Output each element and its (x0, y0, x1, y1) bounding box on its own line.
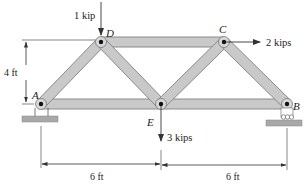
member-AE (41, 99, 161, 109)
pin-support-A (22, 108, 58, 122)
joint-label-D: D (105, 27, 114, 39)
left-span-label: 6 ft (90, 171, 104, 182)
member-EB (161, 99, 287, 109)
joint-label-E: E (146, 116, 154, 128)
load-label-D: 1 kip (74, 10, 95, 21)
member-DE (97, 39, 164, 108)
span-dimensions: 6 ft 6 ft (41, 126, 287, 182)
member-AD (37, 39, 104, 108)
member-CB (220, 38, 290, 107)
right-span-label: 6 ft (226, 171, 240, 182)
truss-diagram: 4 ft (0, 0, 305, 184)
load-E: 3 kips (161, 106, 192, 143)
height-dimension-label: 4 ft (4, 67, 18, 78)
roller-wheel (289, 115, 293, 119)
ground-B (266, 120, 302, 126)
load-D: 1 kip (74, 2, 101, 35)
truss-members (37, 37, 290, 109)
joint-D (96, 37, 107, 48)
ground-A (22, 116, 58, 122)
member-DC (101, 37, 224, 47)
joint-label-C: C (219, 23, 227, 35)
load-label-C: 2 kips (266, 37, 291, 48)
joint-label-A: A (31, 89, 39, 101)
joint-label-B: B (293, 100, 300, 112)
member-EC (157, 39, 228, 108)
load-label-E: 3 kips (167, 132, 192, 143)
